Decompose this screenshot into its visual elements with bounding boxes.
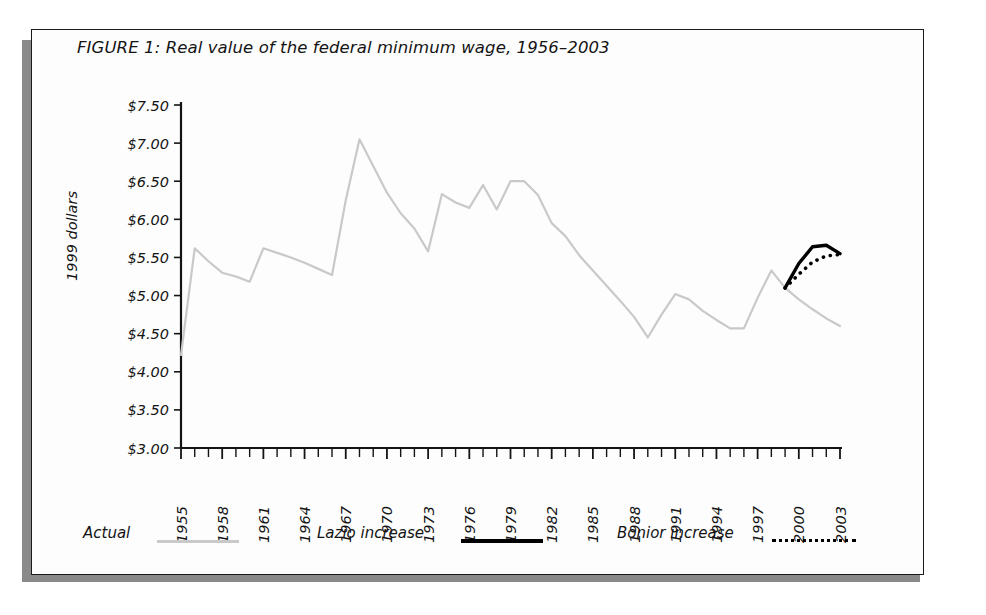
- y-axis-tick-label: $5.50: [127, 250, 169, 266]
- chart-plot-area: $3.00$3.50$4.00$4.50$5.00$5.50$6.00$6.50…: [0, 0, 986, 615]
- x-axis-tick-label: 1958: [215, 506, 231, 543]
- series-line-lazio-increase: [785, 245, 840, 288]
- y-axis-tick-label: $4.00: [127, 364, 169, 380]
- legend-label-lazio: Lazio increase: [317, 524, 424, 542]
- legend-swatch-actual: [157, 540, 239, 543]
- y-axis-tick-label: $5.00: [127, 288, 169, 304]
- y-axis-tick-label: $3.00: [127, 441, 169, 457]
- x-axis-tick-label: 1979: [503, 506, 519, 543]
- legend-label-actual: Actual: [83, 524, 130, 542]
- figure-root: FIGURE 1: Real value of the federal mini…: [0, 0, 986, 615]
- x-axis-tick-label: 2003: [833, 506, 849, 543]
- y-axis-tick-label: $6.50: [127, 174, 169, 190]
- legend-swatch-bonior: [772, 539, 856, 542]
- y-axis-tick-label: $3.50: [127, 402, 169, 418]
- series-line-actual: [181, 139, 840, 355]
- y-axis-tick-label: $7.00: [127, 136, 169, 152]
- x-axis-tick-label: 2000: [791, 506, 807, 543]
- legend-swatch-lazio: [461, 539, 543, 543]
- x-axis-tick-label: 1961: [256, 506, 272, 543]
- x-axis-tick-label: 1964: [297, 506, 313, 543]
- legend-label-bonior: Bonior increase: [617, 524, 734, 542]
- y-axis-tick-label: $7.50: [127, 98, 169, 114]
- x-axis-tick-label: 1997: [750, 505, 766, 543]
- x-axis-tick-label: 1985: [585, 506, 601, 543]
- x-axis-tick-label: 1976: [462, 506, 478, 543]
- x-axis-tick-label: 1955: [174, 506, 190, 543]
- y-axis-tick-label: $6.00: [127, 212, 169, 228]
- y-axis-tick-label: $4.50: [127, 326, 169, 342]
- x-axis-tick-label: 1982: [544, 506, 560, 543]
